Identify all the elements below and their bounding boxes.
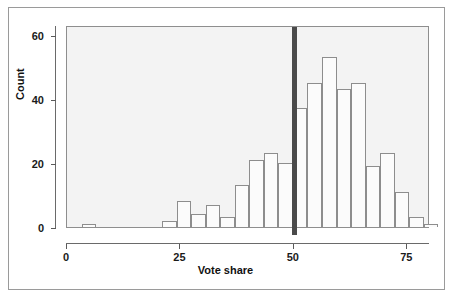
histogram-bar	[206, 205, 221, 227]
histogram-bar	[424, 224, 439, 227]
y-axis-tick-mark	[51, 228, 56, 229]
plot-area	[66, 26, 429, 228]
histogram-bar	[191, 214, 206, 227]
histogram-bar	[307, 83, 322, 227]
y-axis-line	[55, 26, 56, 228]
histogram-bar	[409, 217, 424, 227]
histogram-bar	[264, 153, 279, 227]
histogram-bar	[337, 89, 352, 227]
y-axis-tick-label: 0	[0, 223, 44, 234]
histogram-bar	[235, 185, 250, 227]
histogram-bar	[162, 221, 177, 227]
x-axis-tick-mark	[179, 244, 180, 249]
histogram-figure: 0204060 0255075 Count Vote share	[0, 0, 451, 296]
histogram-bar	[395, 192, 410, 227]
histogram-bar	[278, 163, 293, 227]
x-axis-line	[66, 243, 429, 244]
x-axis-tick-mark	[406, 244, 407, 249]
y-axis-tick-label: 20	[0, 159, 44, 170]
y-axis-title: Count	[14, 68, 26, 100]
histogram-bar	[366, 166, 381, 227]
histogram-bar	[249, 160, 264, 227]
y-axis-tick-mark	[51, 164, 56, 165]
histogram-bar	[380, 153, 395, 227]
x-axis-tick-mark	[293, 244, 294, 249]
histogram-bar	[322, 57, 337, 227]
histogram-bar	[177, 201, 192, 227]
histogram-bar	[220, 217, 235, 227]
x-axis-tick-label: 25	[159, 252, 199, 263]
y-axis-tick-mark	[51, 100, 56, 101]
y-axis-tick-label: 60	[0, 31, 44, 42]
x-axis-tick-label: 0	[46, 252, 86, 263]
x-axis-tick-label: 75	[386, 252, 426, 263]
fifty-percent-threshold-line	[292, 27, 297, 235]
histogram-bar	[351, 83, 366, 227]
x-axis-tick-mark	[66, 244, 67, 249]
y-axis-tick-mark	[51, 36, 56, 37]
x-axis-tick-label: 50	[273, 252, 313, 263]
histogram-bar	[82, 224, 97, 227]
x-axis-title: Vote share	[0, 264, 451, 276]
